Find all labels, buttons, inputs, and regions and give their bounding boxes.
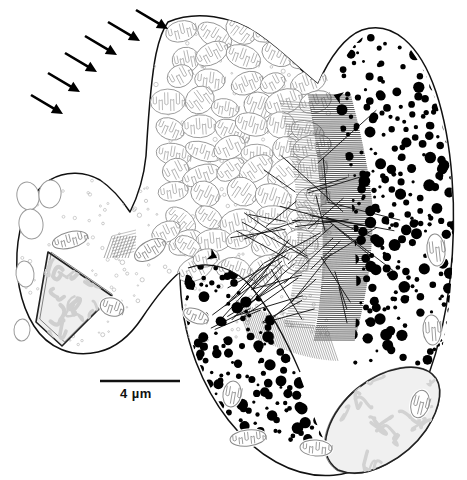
scale-bar-label: 4 µm bbox=[120, 386, 152, 401]
cell-ultrastructure-figure bbox=[0, 0, 467, 480]
